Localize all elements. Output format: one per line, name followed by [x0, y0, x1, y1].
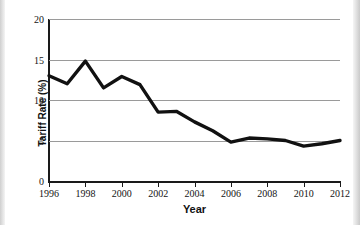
x-axis-tick-label: 2012 [330, 188, 350, 199]
x-axis-tick-label: 2008 [257, 188, 277, 199]
plot-area: 05101520 [49, 19, 340, 181]
x-axis: 199619982000200220042006200820102012 [49, 181, 340, 182]
chart-figure: Tariff Rate (%) 05101520 199619982000200… [0, 0, 360, 225]
x-axis-tick-label: 2010 [294, 188, 314, 199]
x-axis-tick [304, 182, 305, 187]
x-axis-tick-label: 1998 [75, 188, 95, 199]
page-edge-artifact-right [353, 0, 360, 225]
x-axis-tick-label: 2004 [185, 188, 205, 199]
x-axis-tick [231, 182, 232, 187]
x-axis-tick-label: 1996 [39, 188, 59, 199]
x-axis-tick-label: 2002 [148, 188, 168, 199]
y-axis-tick-label: 15 [34, 54, 44, 65]
x-axis-title: Year [49, 203, 340, 215]
y-axis-tick-label: 10 [34, 95, 44, 106]
page-edge-artifact-left [0, 0, 5, 225]
x-axis-tick [122, 182, 123, 187]
x-axis-tick [49, 182, 50, 187]
x-axis-tick [158, 182, 159, 187]
x-axis-tick-label: 2000 [112, 188, 132, 199]
x-axis-tick [340, 182, 341, 187]
data-line [49, 19, 340, 181]
x-axis-tick [267, 182, 268, 187]
y-axis-tick-label: 20 [34, 14, 44, 25]
y-axis-tick-label: 5 [39, 135, 44, 146]
x-axis-tick [85, 182, 86, 187]
x-axis-tick-label: 2006 [221, 188, 241, 199]
x-axis-tick [195, 182, 196, 187]
y-axis-tick-label: 0 [39, 176, 44, 187]
